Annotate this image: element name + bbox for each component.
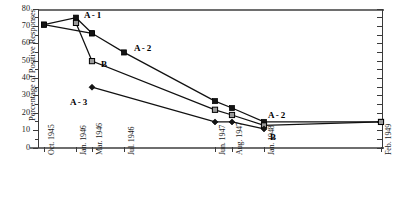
data-point-marker [229,112,234,117]
x-tick [232,147,233,152]
data-point-marker [89,84,95,90]
x-tick [76,147,77,152]
annotation-a2: A - 2 [268,110,285,120]
y-tick [33,78,38,79]
y-tick-label: 20 [0,109,30,117]
y-tick [33,95,38,96]
annotation-a2: A - 2 [134,43,151,53]
y-tick-label: 80 [0,5,30,13]
data-point-marker [73,15,78,20]
right-tick [377,104,383,105]
y-tick [33,113,38,114]
x-tick [44,147,45,152]
series-line-b [76,23,381,126]
right-tick [377,43,383,44]
y-tick-minor [35,17,39,18]
y-tick [33,9,38,10]
data-point-marker [229,105,234,110]
x-tick-label: Jul. 1946 [127,127,136,155]
right-tick [377,78,383,79]
y-tick-label: 30 [0,91,30,99]
y-tick [33,61,38,62]
y-tick-label: 50 [0,57,30,65]
right-tick [377,130,383,131]
annotation-b: B [270,132,276,142]
right-tick [377,69,383,70]
right-tick [377,87,383,88]
series-layer [0,0,408,204]
y-axis-line [38,9,39,148]
right-tick [377,95,383,96]
data-point-marker [212,98,217,103]
annotation-b: B [101,59,107,69]
x-tick-label: Aug. 1947 [235,122,244,155]
x-tick-label: Jun. 1947 [218,125,227,155]
y-tick-minor [35,69,39,70]
y-tick-label: 10 [0,126,30,134]
y-tick-minor [35,121,39,122]
y-tick [33,148,38,149]
annotation-a1: A - 1 [84,10,101,20]
data-point-marker [261,119,266,124]
y-tick [33,26,38,27]
series-line-a-2 [44,25,381,122]
right-tick [377,113,383,114]
x-tick-label: Mar. 1946 [95,123,104,155]
right-tick [377,9,383,10]
right-tick [377,35,383,36]
y-tick-minor [35,52,39,53]
y-tick-label: 60 [0,39,30,47]
x-tick-label: Feb. 1949 [384,124,393,155]
x-tick [124,147,125,152]
x-tick-label: Jan. 1946 [79,125,88,155]
right-tick [377,121,383,122]
data-point-marker [89,59,94,64]
data-point-marker [89,31,94,36]
data-point-marker [261,123,266,128]
right-tick [377,61,383,62]
right-tick [377,17,383,18]
right-tick [377,52,383,53]
data-point-marker [121,50,126,55]
y-tick-label: 40 [0,74,30,82]
y-tick-minor [35,139,39,140]
y-tick-minor [35,87,39,88]
y-tick [33,130,38,131]
y-tick-minor [35,104,39,105]
x-tick [92,147,93,152]
x-tick [381,147,382,152]
x-tick [215,147,216,152]
y-tick-minor [35,35,39,36]
annotation-a3: A - 3 [70,97,87,107]
chart-container: Percentage of Positive Responses 0102030… [0,0,408,204]
right-tick [377,26,383,27]
x-tick-label: Oct. 1945 [47,124,56,155]
right-tick [377,139,383,140]
y-tick [33,43,38,44]
data-point-marker [41,22,46,27]
y-tick-label: 70 [0,22,30,30]
data-point-marker [73,20,78,25]
data-point-marker [41,22,46,27]
data-point-marker [212,107,217,112]
data-point-marker [89,31,94,36]
x-tick [264,147,265,152]
y-tick-label: 0 [0,144,30,152]
